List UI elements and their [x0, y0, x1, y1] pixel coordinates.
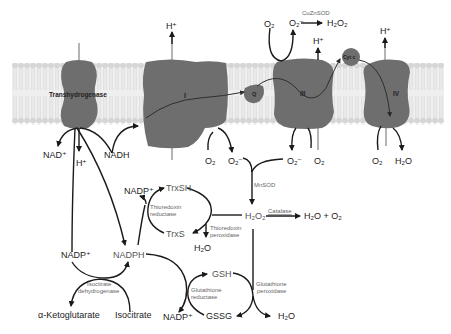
arrow-to-superoxide-i [218, 128, 232, 152]
o2-complex-iv: O₂ [372, 156, 383, 166]
complex-iv-label: IV [393, 90, 400, 97]
thioredoxin-reductase-l1: Thioredoxin [150, 204, 181, 210]
arrow-to-superoxide-iii [292, 128, 296, 150]
alpha-ketoglutarate-label: α-Ketoglutarate [38, 310, 100, 320]
h-plus-complex-iv: H⁺ [380, 26, 392, 36]
thioredoxin-reductase-l2: reductase [150, 211, 177, 217]
superoxide-complex-iii: O₂⁻ [287, 156, 303, 166]
o2-complex-iii-line [308, 128, 311, 148]
o2-ims: O₂ [264, 19, 275, 29]
arrow-to-nadp-plus-trx [140, 196, 146, 204]
catalase-label: Catalase [268, 208, 292, 214]
glutathione-reductase-l2: reductase [191, 294, 218, 300]
o2-complex-iii: O₂ [314, 156, 325, 166]
h2o-o2-product: H₂O + O₂ [304, 211, 342, 221]
nadph-to-nadp-glutathione [146, 254, 187, 312]
nadp-plus-line [72, 128, 75, 252]
superoxide-i-to-mnsod [243, 158, 252, 172]
nadph-label: NADPH [113, 250, 145, 260]
isocitrate-label: Isocitrate [115, 310, 152, 320]
h-plus-complex-i: H⁺ [166, 21, 178, 31]
nadp-plus-left: NADP⁺ [61, 250, 91, 260]
transhydrogenase-to-nadph [77, 128, 125, 245]
glutathione-peroxidase-l1: Glutathione [256, 281, 287, 287]
h2o-complex-iv: H₂O [395, 156, 412, 166]
isocitrate-dehydrogenase-l2: dehydrogenase [78, 288, 120, 294]
gsh-to-gssg [233, 273, 253, 316]
h2o2-ims: H₂O₂ [327, 18, 348, 28]
q-label: Q [252, 91, 257, 97]
arrow-to-h2o-glutathione [253, 296, 270, 316]
nadph-to-trx-reductase [138, 205, 145, 245]
superoxide-complex-i: O₂⁻ [228, 156, 244, 166]
o2-complex-iv-line [377, 126, 381, 150]
mitochondrial-ros-diagram: Transhydrogenase I Q III Cyt c IV H⁺ H⁺ … [0, 0, 451, 334]
glutathione-reductase-l1: Glutathione [191, 287, 222, 293]
thioredoxin-peroxidase-l2: peroxidase [210, 232, 240, 238]
h2o-thioredoxin: H₂O [194, 243, 211, 253]
nadh-label: NADH [104, 150, 130, 160]
mnsod-label: MnSOD [254, 182, 276, 188]
complex-i-label: I [184, 92, 186, 99]
cyt-c-label: Cyt c [343, 54, 355, 60]
nadp-plus-trx: NADP⁺ [124, 186, 154, 196]
gssg-label: GSSG [206, 311, 232, 321]
h-plus-matrix-label: H⁺ [76, 158, 88, 168]
thioredoxin-peroxidase-l1: Thioredoxin [210, 225, 241, 231]
o2-complex-i: O₂ [205, 156, 216, 166]
nadp-to-nadph-arrow [72, 262, 128, 278]
transhydrogenase-label: Transhydrogenase [49, 91, 107, 99]
isocitrate-dehydrogenase-l1: Isocitrate [87, 281, 112, 287]
nadp-plus-glutathione: NADP⁺ [163, 312, 193, 322]
o2-complex-i-line [208, 132, 213, 150]
h2o-glutathione: H₂O [278, 311, 295, 321]
h2o2-matrix: H₂O₂ [245, 211, 266, 221]
trxsh-label: TrxSH [166, 183, 191, 193]
cytochrome-c: Cyt c [342, 48, 360, 66]
h-plus-complex-iii: H⁺ [313, 36, 325, 46]
superoxide-iii-to-mnsod [252, 159, 283, 172]
trxs-label: TrxS [166, 229, 185, 239]
nadh-to-complex-i [112, 126, 138, 153]
arrow-to-h2o-iv [393, 128, 402, 150]
glutathione-peroxidase-l2: peroxidase [257, 288, 287, 294]
trxsh-to-trxs [187, 188, 211, 233]
complex-iii-protein: III [273, 58, 334, 150]
gsh-label: GSH [212, 269, 232, 279]
o2-to-superoxide-ims [269, 28, 293, 61]
cuznsod-label: CuZnSOD [302, 10, 330, 16]
nad-plus-label: NAD⁺ [43, 150, 67, 160]
